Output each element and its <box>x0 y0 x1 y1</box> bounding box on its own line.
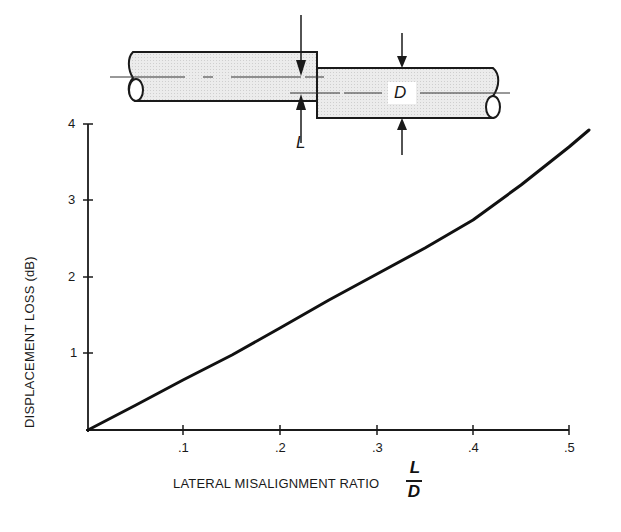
y-tick-4: 4 <box>68 116 75 131</box>
x-tick-0.3: .3 <box>372 440 383 455</box>
x-tick-0.1: .1 <box>178 440 189 455</box>
y-tick-3: 3 <box>68 192 75 207</box>
y-tick-1: 1 <box>70 345 77 360</box>
label-L: L <box>296 133 305 153</box>
y-axis-label: DISPLACEMENT LOSS (dB) <box>22 256 37 428</box>
x-tick-0.5: .5 <box>564 440 575 455</box>
x-frac-denominator: D <box>404 482 424 502</box>
left-fiber-end <box>129 79 143 101</box>
x-tick-0.4: .4 <box>468 440 479 455</box>
loss-curve <box>88 130 589 430</box>
x-axis-label: LATERAL MISALIGNMENT RATIO <box>173 476 379 491</box>
y-tick-2: 2 <box>68 269 75 284</box>
right-fiber-end <box>486 96 500 118</box>
label-D: D <box>394 83 406 103</box>
x-frac-numerator: L <box>405 458 425 478</box>
chart-figure <box>0 0 621 532</box>
x-tick-0.2: .2 <box>275 440 286 455</box>
fiber-misalignment-diagram <box>110 15 510 155</box>
axes <box>83 124 569 435</box>
